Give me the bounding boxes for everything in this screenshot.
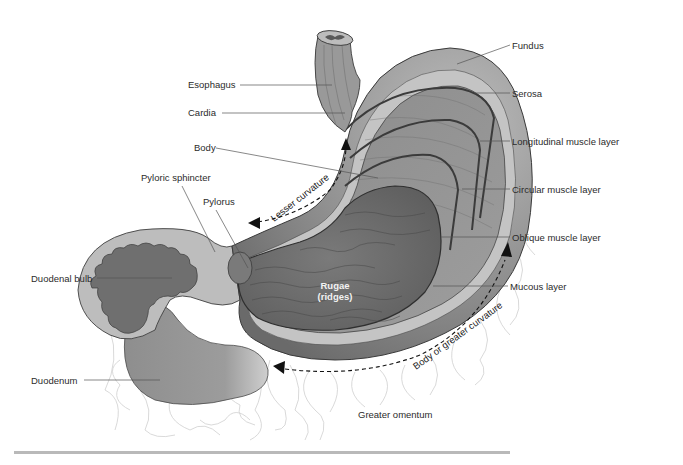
label-body: Body <box>194 142 216 153</box>
label-fundus: Fundus <box>512 40 544 51</box>
bottom-divider <box>14 451 510 454</box>
label-mucous-layer: Mucous layer <box>510 281 567 292</box>
label-duodenal-bulb: Duodenal bulb <box>31 273 92 284</box>
label-serosa: Serosa <box>512 88 542 99</box>
label-pyloric-sphincter: Pyloric sphincter <box>141 172 211 183</box>
label-duodenum: Duodenum <box>31 375 77 386</box>
stomach-anatomy-diagram: Lesser curvature Body or greater curvatu… <box>0 0 683 465</box>
label-greater-omentum: Greater omentum <box>358 409 432 420</box>
label-longitudinal-muscle-layer: Longitudinal muscle layer <box>512 136 619 147</box>
label-rugae: Rugae (ridges) <box>310 280 360 302</box>
label-oblique-muscle-layer: Oblique muscle layer <box>512 232 601 243</box>
esophagus-shape <box>315 36 360 132</box>
label-pylorus: Pylorus <box>203 196 235 207</box>
pyloric-sphincter-shape <box>228 252 252 284</box>
label-rugae-line1: Rugae <box>310 280 360 291</box>
label-rugae-line2: (ridges) <box>310 291 360 302</box>
label-esophagus: Esophagus <box>188 79 236 90</box>
label-circular-muscle-layer: Circular muscle layer <box>512 184 601 195</box>
label-cardia: Cardia <box>188 107 216 118</box>
